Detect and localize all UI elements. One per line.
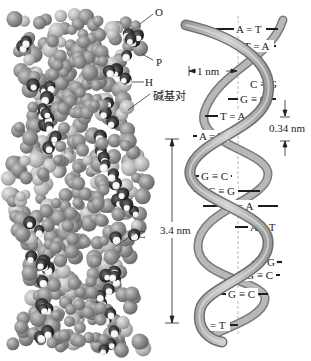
atom-hydrogen: [109, 275, 116, 282]
atom-base: [86, 286, 99, 299]
atom: [14, 320, 28, 334]
atom: [33, 16, 46, 29]
atom-base: [64, 316, 75, 327]
label-hydrogen: H: [145, 76, 153, 88]
atom: [6, 11, 22, 27]
atom-hydrogen: [108, 174, 116, 182]
diagram-canvas: O P H 碱基对 C A = TT = AC ≡ GG ≡ CT = AA =…: [0, 0, 311, 361]
atom-hydrogen: [127, 39, 133, 45]
atom-hydrogen: [108, 313, 115, 320]
atom-base: [79, 236, 91, 248]
atom-hydrogen: [100, 164, 108, 172]
atom: [39, 204, 53, 218]
atom-hydrogen: [100, 350, 106, 356]
atom-base: [51, 198, 61, 208]
rise-label: 0.34 nm: [269, 122, 306, 134]
atom-hydrogen: [112, 182, 119, 189]
atom-base: [52, 59, 64, 71]
atom-hydrogen: [41, 308, 47, 314]
atom-hydrogen: [22, 41, 29, 48]
atom-base: [95, 314, 107, 326]
atom-base: [93, 16, 104, 27]
atom-base: [99, 334, 109, 344]
atom-hydrogen: [27, 257, 33, 263]
atom-base: [76, 143, 89, 156]
atom: [27, 102, 38, 113]
atom: [22, 130, 38, 146]
atom-base: [95, 302, 107, 314]
atom-base: [58, 329, 70, 341]
atom-base: [66, 233, 79, 246]
atom-base: [94, 29, 106, 41]
atom-base: [85, 276, 96, 287]
atom-base: [57, 102, 70, 115]
atom-hydrogen: [97, 295, 104, 302]
atom: [134, 156, 150, 172]
atom-hydrogen: [100, 112, 107, 119]
label-carbon: C: [138, 228, 145, 240]
atom-hydrogen: [51, 137, 57, 143]
atom-hydrogen: [124, 205, 130, 211]
atom-base: [71, 177, 85, 191]
atom: [55, 10, 68, 23]
atom-hydrogen: [27, 222, 33, 228]
atom-base: [54, 254, 67, 267]
atom-hydrogen: [37, 263, 43, 269]
atom-base: [46, 35, 59, 48]
atom: [37, 167, 50, 180]
atom-base: [74, 322, 86, 334]
base-pair-label: A = T: [236, 23, 262, 35]
atom-hydrogen: [133, 212, 139, 218]
label-phosphorus: P: [156, 56, 162, 68]
atom-hydrogen: [113, 237, 121, 245]
atom-hydrogen: [46, 126, 53, 133]
dna-diagram: O P H 碱基对 C A = TT = AC ≡ GG ≡ CT = AA =…: [0, 0, 311, 361]
atom: [107, 29, 118, 40]
atom-base: [91, 197, 104, 210]
atom: [116, 316, 130, 330]
atom: [104, 249, 120, 265]
atom-hydrogen: [107, 70, 114, 77]
atom-hydrogen: [106, 288, 113, 295]
atom-hydrogen: [36, 230, 43, 237]
atom-base: [73, 334, 86, 347]
atom-hydrogen: [122, 54, 130, 62]
atom: [124, 286, 139, 301]
atom-base: [64, 207, 77, 220]
atom: [23, 54, 35, 66]
atom-base: [91, 80, 102, 91]
atom: [16, 191, 26, 201]
atom-base: [55, 141, 66, 152]
atom-base: [73, 299, 85, 311]
atom-base: [90, 100, 100, 110]
base-pair-label: G ≡ C: [228, 288, 255, 300]
atom-base: [75, 87, 86, 98]
atom: [53, 155, 63, 165]
atom-base: [95, 214, 108, 227]
atom: [120, 140, 131, 151]
atom-base: [51, 310, 62, 321]
atom: [82, 155, 92, 165]
diameter-label: 1 nm: [197, 65, 220, 77]
atom-labels: O P H 碱基对 C: [138, 6, 186, 240]
atom-hydrogen: [40, 280, 48, 288]
atom-base: [98, 184, 109, 195]
atom-cluster: [1, 8, 155, 358]
atom-hydrogen: [31, 85, 37, 91]
atom-hydrogen: [104, 275, 110, 281]
atom: [19, 155, 30, 166]
atom: [6, 337, 19, 350]
atom-base: [47, 278, 61, 292]
atom-base: [49, 241, 62, 254]
atom-base: [96, 137, 109, 150]
atom: [135, 188, 151, 204]
atom-base: [77, 35, 90, 48]
atom-hydrogen: [44, 113, 50, 119]
atom: [28, 151, 45, 168]
atom-hydrogen: [109, 343, 115, 349]
atom: [131, 334, 147, 350]
atom-hydrogen: [111, 330, 119, 338]
atom-base: [62, 220, 74, 232]
atom-base: [99, 236, 109, 246]
atom: [139, 174, 155, 190]
